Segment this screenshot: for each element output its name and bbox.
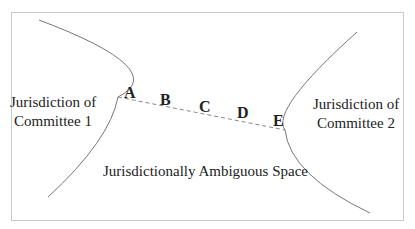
point-d-label: D [237,104,249,122]
committee-2-label-line2: Committee 2 [313,114,399,133]
committee-1-label: Jurisdiction of Committee 1 [10,93,96,131]
point-c-label: C [199,98,211,116]
committee-1-label-line1: Jurisdiction of [10,93,96,112]
point-b-label: B [160,91,171,109]
ambiguous-space-label: Jurisdictionally Ambiguous Space [103,162,308,181]
point-e-label: E [273,112,284,130]
committee-2-label: Jurisdiction of Committee 2 [313,95,399,133]
point-a-label: A [124,84,136,102]
committee-1-label-line2: Committee 1 [10,112,96,131]
committee-2-label-line1: Jurisdiction of [313,95,399,114]
